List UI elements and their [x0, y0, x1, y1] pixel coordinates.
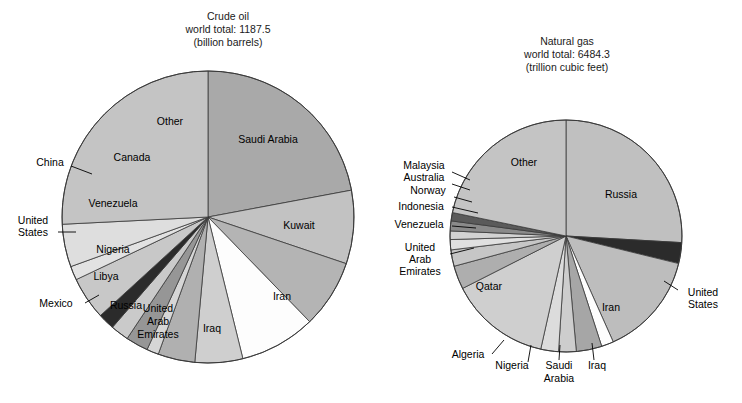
crude-oil-pie: [62, 71, 354, 363]
natural-gas-callout-label-arabia: Arabia: [544, 372, 575, 384]
crude-oil-inside-label-iran: Iran: [273, 290, 291, 302]
crude-oil-inside-label-venezuela: Venezuela: [88, 197, 137, 209]
natural-gas-pie: [450, 120, 682, 352]
crude-oil-inside-label-libya: Libya: [93, 270, 118, 282]
crude-oil-inside-label-kuwait: Kuwait: [283, 219, 315, 231]
crude-oil-callout-label-china: China: [36, 156, 64, 168]
crude-oil-title-line-2: (billion barrels): [194, 36, 263, 48]
crude-oil-inside-label-canada: Canada: [114, 151, 151, 163]
crude-oil-title-line-1: world total: 1187.5: [184, 23, 270, 35]
natural-gas-title-line-2: (trillion cubic feet): [526, 61, 608, 73]
pie-chart-figure: Crude oilworld total: 1187.5(billion bar…: [0, 0, 742, 403]
natural-gas-title-line-0: Natural gas: [540, 35, 594, 47]
natural-gas-callout-label-norway: Norway: [410, 184, 446, 196]
crude-oil-inside-label-saudi-arabia: Saudi Arabia: [238, 133, 298, 145]
natural-gas-inside-label-other: Other: [511, 156, 538, 168]
natural-gas-callout-label-states: States: [688, 298, 718, 310]
natural-gas-callout-label-malaysia: Malaysia: [403, 159, 445, 171]
natural-gas-inside-label-qatar: Qatar: [476, 280, 503, 292]
crude-oil-callout-label-mexico: Mexico: [39, 297, 72, 309]
crude-oil-inside-label-other: Other: [157, 115, 184, 127]
natural-gas-inside-label-russia: Russia: [605, 188, 637, 200]
crude-oil-inside-label-arab: Arab: [147, 315, 169, 327]
natural-gas-callout-label-nigeria: Nigeria: [495, 359, 528, 371]
crude-oil-inside-label-iraq: Iraq: [203, 322, 221, 334]
natural-gas-callout-label-emirates: Emirates: [399, 265, 440, 277]
crude-oil-inside-label-russia: Russia: [110, 299, 142, 311]
natural-gas-inside-label-iran: Iran: [602, 301, 620, 313]
crude-oil-callout-label-states: States: [18, 226, 48, 238]
natural-gas-callout-label-venezuela: Venezuela: [394, 218, 443, 230]
crude-oil-inside-label-nigeria: Nigeria: [96, 243, 129, 255]
natural-gas-callout-label-arab: Arab: [409, 253, 431, 265]
crude-oil-inside-label-emirates: Emirates: [137, 328, 178, 340]
natural-gas-callout-label-indonesia: Indonesia: [398, 200, 444, 212]
crude-oil-inside-label-united: United: [143, 302, 174, 314]
energy-reserves-pie-charts: Crude oilworld total: 1187.5(billion bar…: [0, 0, 742, 403]
natural-gas-callout-label-algeria: Algeria: [452, 348, 485, 360]
natural-gas-callout-label-united: United: [405, 241, 436, 253]
natural-gas-callout-label-united: United: [688, 286, 719, 298]
natural-gas-title-line-1: world total: 6484.3: [523, 48, 610, 60]
natural-gas-callout-label-iraq: Iraq: [588, 359, 606, 371]
natural-gas-callout-label-australia: Australia: [404, 171, 445, 183]
crude-oil-title-line-0: Crude oil: [207, 10, 249, 22]
natural-gas-callout-label-saudi: Saudi: [546, 359, 573, 371]
crude-oil-callout-label-united: United: [18, 214, 49, 226]
